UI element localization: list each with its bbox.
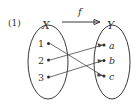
arrowhead-a	[98, 43, 103, 47]
node-dot-a	[103, 44, 106, 47]
element-label-a: a	[109, 40, 115, 51]
domain-label: X	[41, 19, 51, 32]
figure-number: (1)	[8, 18, 21, 28]
arrowhead-c	[97, 72, 103, 76]
element-label-3: 3	[38, 72, 44, 83]
node-dot-1	[47, 42, 50, 45]
element-label-c: c	[109, 71, 115, 82]
node-dot-c	[103, 75, 106, 78]
element-label-2: 2	[38, 55, 44, 66]
domain-oval	[28, 25, 68, 99]
function-mapping-diagram: (1) X Y f 1 2 3 a b c	[0, 0, 140, 107]
arrowhead-b	[98, 59, 104, 63]
node-dot-2	[47, 59, 50, 62]
element-label-b: b	[109, 55, 115, 66]
node-dot-b	[103, 59, 106, 62]
figure-container: (1) X Y f 1 2 3 a b c	[0, 0, 140, 107]
node-dot-3	[47, 76, 50, 79]
element-label-1: 1	[38, 38, 44, 49]
map-function-label: f	[77, 6, 84, 17]
